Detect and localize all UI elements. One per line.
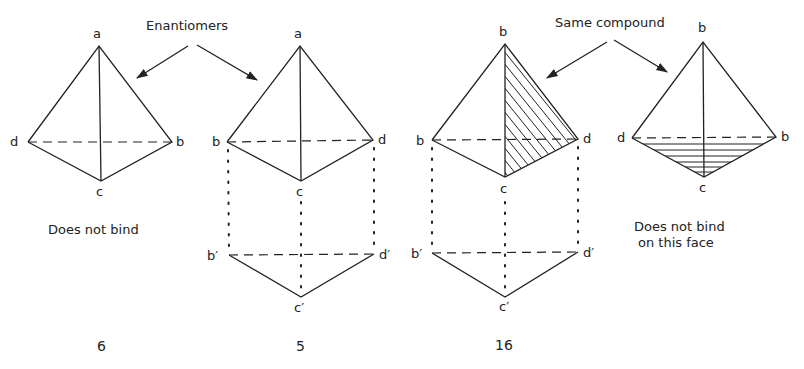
vertex-label: d — [378, 132, 386, 147]
caption: on this face — [638, 235, 714, 250]
same-compound-label: Same compound — [555, 15, 665, 30]
caption: Does not bind — [634, 219, 725, 234]
shaded-face — [620, 144, 790, 172]
enantiomers-annotation: Enantiomers — [137, 18, 257, 80]
vertex-label: d′ — [583, 245, 594, 260]
caption: Does not bind — [48, 222, 139, 237]
same-compound-annotation: Same compound — [547, 15, 667, 78]
vertex-label: c — [699, 180, 706, 195]
compound-number: 6 — [97, 338, 106, 354]
vertex-label: c′ — [499, 299, 509, 314]
vertex-label: d — [617, 130, 625, 145]
arrow-icon — [547, 42, 607, 78]
vertex-label: c — [500, 181, 507, 196]
vertex-label: b — [416, 133, 424, 148]
vertex-label: b′ — [207, 248, 218, 263]
vertex-label: c — [296, 184, 303, 199]
vertex-label: b — [698, 20, 706, 35]
vertex-label: c′ — [294, 300, 304, 315]
vertex-label: b — [176, 134, 184, 149]
arrow-icon — [137, 46, 188, 78]
vertex-label: a — [294, 26, 302, 41]
tetrahedron-5: a b d c b′ d′ c′ 5 — [207, 26, 390, 354]
tetrahedron-16: b b d c b′ d′ c′ 16 — [411, 16, 600, 353]
vertex-label: b — [212, 134, 220, 149]
vertex-label: d — [583, 131, 591, 146]
tetrahedron-6: a d b c Does not bind 6 — [10, 26, 184, 354]
compound-number: 5 — [296, 338, 305, 354]
arrow-icon — [614, 40, 667, 72]
tetrahedron-16-rotated: b d b c Does not bind on this face — [617, 20, 790, 250]
vertex-label: a — [93, 26, 101, 41]
vertex-label: b′ — [411, 246, 422, 261]
vertex-label: c — [96, 184, 103, 199]
arrow-icon — [197, 45, 257, 80]
diagram-canvas: Enantiomers Same compound a d b c Does n… — [0, 0, 804, 369]
vertex-label: b — [499, 24, 507, 39]
vertex-label: b — [781, 129, 789, 144]
compound-number: 16 — [495, 337, 513, 353]
vertex-label: d′ — [379, 247, 390, 262]
enantiomers-label: Enantiomers — [146, 18, 228, 33]
vertex-label: d — [10, 134, 18, 149]
